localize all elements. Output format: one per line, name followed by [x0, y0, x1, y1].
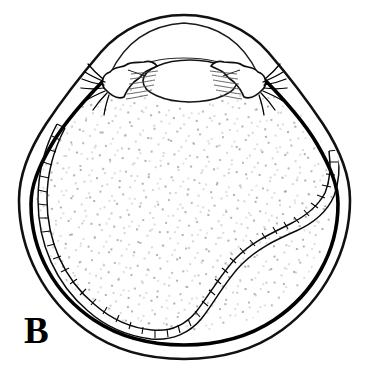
panel-label-b: B: [24, 311, 49, 351]
eye-cross-section-diagram: [0, 0, 368, 369]
vitreous-body: [0, 0, 368, 369]
figure-panel-b: B: [0, 0, 368, 369]
